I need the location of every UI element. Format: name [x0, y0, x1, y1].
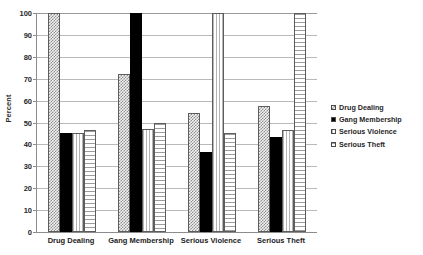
plot-area: 0102030405060708090100: [36, 13, 317, 233]
bar: [130, 13, 142, 232]
legend-label: Gang Membership: [339, 115, 402, 124]
x-tick-label: Gang Membership: [108, 236, 173, 245]
y-tick-label: 30: [24, 162, 32, 171]
y-tick-label: 90: [24, 30, 32, 39]
x-axis-labels: Drug DealingGang MembershipSerious Viole…: [36, 234, 316, 252]
bar: [258, 106, 270, 232]
bar-group: [177, 13, 247, 232]
legend-label: Drug Dealing: [339, 103, 384, 112]
bar: [294, 13, 306, 232]
legend-label: Serious Theft: [339, 140, 385, 149]
y-axis-title: Percent: [4, 79, 13, 139]
bar: [212, 13, 224, 232]
legend-swatch-icon: [331, 117, 336, 122]
legend-swatch-icon: [331, 105, 336, 110]
bar-group: [37, 13, 107, 232]
y-tick-mark: [33, 232, 37, 233]
legend-item[interactable]: Serious Theft: [331, 140, 402, 149]
bar: [270, 137, 282, 232]
y-tick-label: 80: [24, 52, 32, 61]
bar: [142, 129, 154, 232]
y-tick-label: 10: [24, 206, 32, 215]
bar-group: [247, 13, 317, 232]
bar: [60, 133, 72, 232]
bar: [48, 13, 60, 232]
chart-legend: Drug DealingGang MembershipSerious Viole…: [331, 103, 402, 149]
bar: [72, 133, 84, 232]
y-tick-label: 40: [24, 140, 32, 149]
legend-swatch-icon: [331, 142, 336, 147]
bar-groups: [37, 13, 317, 232]
x-tick-label: Drug Dealing: [48, 236, 95, 245]
bar: [154, 123, 166, 233]
legend-item[interactable]: Gang Membership: [331, 115, 402, 124]
y-tick-label: 50: [24, 118, 32, 127]
y-tick-label: 0: [28, 228, 32, 237]
legend-item[interactable]: Serious Violence: [331, 127, 402, 136]
y-tick-label: 100: [19, 9, 32, 18]
bar: [118, 74, 130, 232]
bar: [84, 130, 96, 232]
legend-label: Serious Violence: [339, 127, 397, 136]
y-tick-label: 20: [24, 184, 32, 193]
bar: [224, 133, 236, 232]
y-tick-label: 60: [24, 96, 32, 105]
x-tick-label: Serious Violence: [181, 236, 241, 245]
bar: [200, 152, 212, 232]
bar: [282, 130, 294, 232]
y-tick-label: 70: [24, 74, 32, 83]
x-tick-label: Serious Theft: [257, 236, 305, 245]
bar-group: [107, 13, 177, 232]
bar-chart: Percent 0102030405060708090100 Drug Deal…: [0, 0, 423, 255]
bar: [188, 113, 200, 232]
legend-item[interactable]: Drug Dealing: [331, 103, 402, 112]
legend-swatch-icon: [331, 129, 336, 134]
